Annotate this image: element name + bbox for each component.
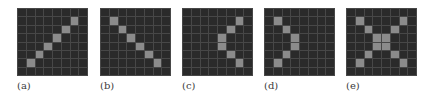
grid-cell-off	[162, 51, 170, 58]
panel-label-c: (c)	[182, 80, 195, 91]
grid-cell-off	[183, 17, 191, 24]
grid-cell-off	[283, 59, 291, 66]
grid-cell-off	[400, 43, 408, 50]
grid-cell-off	[162, 17, 170, 24]
pixel-grid-e	[346, 8, 417, 76]
grid-cell-off	[71, 59, 79, 66]
grid-cell-off	[154, 68, 162, 75]
grid-cell-off	[356, 43, 364, 50]
grid-cell-off	[318, 26, 326, 33]
grid-cell-off	[44, 34, 52, 41]
grid-cell-off	[36, 34, 44, 41]
grid-cell-off	[53, 9, 61, 16]
grid-cell-on	[291, 43, 299, 50]
grid-cell-off	[309, 43, 317, 50]
grid-cell-off	[209, 51, 217, 58]
grid-cell-off	[218, 17, 226, 24]
panel-e: (e)	[346, 8, 417, 76]
grid-cell-off	[318, 17, 326, 24]
grid-cell-off	[145, 68, 153, 75]
grid-cell-off	[201, 43, 209, 50]
grid-cell-off	[119, 9, 127, 16]
grid-cell-off	[18, 51, 26, 58]
grid-cell-off	[110, 51, 118, 58]
grid-cell-on	[136, 43, 144, 50]
grid-cell-off	[119, 59, 127, 66]
grid-cell-off	[347, 9, 355, 16]
grid-cell-off	[192, 68, 200, 75]
grid-cell-off	[145, 59, 153, 66]
panel-a: (a)	[17, 8, 88, 76]
grid-cell-off	[265, 43, 273, 50]
grid-cell-on	[356, 17, 364, 24]
grid-cell-off	[110, 26, 118, 33]
grid-cell-off	[391, 59, 399, 66]
grid-cell-off	[265, 68, 273, 75]
grid-cell-off	[192, 51, 200, 58]
grid-cell-on	[382, 34, 390, 41]
grid-cell-off	[53, 51, 61, 58]
grid-cell-off	[145, 34, 153, 41]
grid-cell-on	[154, 59, 162, 66]
grid-cell-off	[244, 34, 252, 41]
grid-cell-off	[300, 59, 308, 66]
grid-cell-off	[136, 26, 144, 33]
grid-cell-on	[27, 59, 35, 66]
grid-cell-off	[62, 17, 70, 24]
grid-cell-off	[356, 26, 364, 33]
grid-cell-off	[79, 26, 87, 33]
grid-cell-off	[209, 43, 217, 50]
grid-cell-off	[347, 26, 355, 33]
grid-cell-off	[162, 59, 170, 66]
grid-cell-on	[53, 34, 61, 41]
grid-cell-off	[236, 26, 244, 33]
grid-cell-off	[36, 43, 44, 50]
grid-cell-off	[347, 17, 355, 24]
grid-cell-off	[71, 43, 79, 50]
grid-cell-off	[236, 9, 244, 16]
grid-cell-off	[79, 59, 87, 66]
panel-label-e: (e)	[346, 80, 360, 91]
grid-cell-off	[218, 59, 226, 66]
grid-cell-off	[192, 9, 200, 16]
grid-cell-off	[201, 9, 209, 16]
grid-cell-off	[227, 9, 235, 16]
grid-cell-off	[408, 34, 416, 41]
grid-cell-off	[291, 59, 299, 66]
grid-cell-off	[283, 34, 291, 41]
grid-cell-off	[79, 34, 87, 41]
grid-cell-off	[27, 9, 35, 16]
grid-cell-off	[27, 34, 35, 41]
grid-cell-off	[18, 17, 26, 24]
grid-cell-off	[244, 51, 252, 58]
grid-cell-off	[71, 68, 79, 75]
grid-cell-on	[365, 26, 373, 33]
grid-cell-off	[391, 17, 399, 24]
grid-cell-off	[283, 17, 291, 24]
grid-cell-off	[274, 68, 282, 75]
grid-cell-off	[309, 51, 317, 58]
grid-cell-off	[227, 43, 235, 50]
grid-cell-off	[218, 51, 226, 58]
grid-cell-off	[110, 9, 118, 16]
grid-cell-off	[127, 68, 135, 75]
pixel-grid-d	[264, 8, 335, 76]
grid-cell-off	[192, 43, 200, 50]
grid-cell-off	[373, 26, 381, 33]
grid-cell-off	[119, 51, 127, 58]
panel-c: (c)	[182, 8, 253, 76]
grid-cell-off	[136, 59, 144, 66]
grid-cell-off	[356, 9, 364, 16]
grid-cell-off	[136, 17, 144, 24]
grid-cell-off	[309, 17, 317, 24]
grid-cell-off	[382, 68, 390, 75]
grid-cell-on	[365, 51, 373, 58]
grid-cell-off	[236, 51, 244, 58]
grid-cell-off	[145, 9, 153, 16]
grid-cell-off	[326, 9, 334, 16]
grid-cell-on	[400, 59, 408, 66]
grid-cell-off	[162, 26, 170, 33]
grid-cell-off	[373, 9, 381, 16]
grid-cell-off	[183, 43, 191, 50]
grid-cell-on	[227, 51, 235, 58]
